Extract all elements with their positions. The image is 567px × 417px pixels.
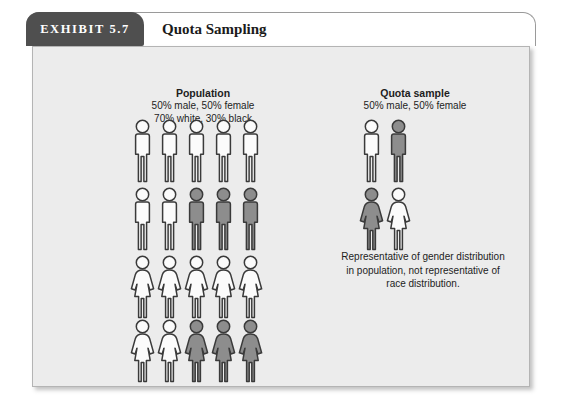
white-female-figure-icon — [385, 187, 412, 251]
white-male-figure-icon — [237, 119, 264, 183]
white-female-figure-icon — [210, 255, 237, 319]
white-female-figure-icon — [156, 319, 183, 383]
population-figure-row — [129, 319, 264, 383]
exhibit-body-panel: Population 50% male, 50% female 70% whit… — [32, 46, 530, 387]
white-female-figure-icon — [183, 255, 210, 319]
gray-male-figure-icon — [385, 119, 412, 183]
population-heading: Population — [93, 87, 313, 100]
white-female-figure-icon — [129, 255, 156, 319]
white-male-figure-icon — [156, 119, 183, 183]
gray-female-figure-icon — [358, 187, 385, 251]
gray-female-figure-icon — [210, 319, 237, 383]
population-figure-row — [129, 119, 264, 183]
population-figure-row — [129, 255, 264, 319]
gray-male-figure-icon — [210, 187, 237, 251]
white-male-figure-icon — [358, 119, 385, 183]
white-male-figure-icon — [129, 119, 156, 183]
quota-note: Representative of gender distribution in… — [313, 250, 533, 291]
gray-female-figure-icon — [237, 319, 264, 383]
population-figure-row — [129, 187, 264, 251]
quota-figure-row — [358, 119, 412, 183]
exhibit-card: EXHIBIT 5.7 Quota Sampling Population 50… — [26, 12, 536, 394]
quota-note-line-2: in population, not representative of — [313, 264, 533, 278]
exhibit-title: Quota Sampling — [162, 21, 267, 38]
population-subtext-gender: 50% male, 50% female — [93, 100, 313, 113]
quota-subtext-gender: 50% male, 50% female — [315, 100, 515, 113]
gray-female-figure-icon — [183, 319, 210, 383]
exhibit-number-tab: EXHIBIT 5.7 — [26, 12, 144, 46]
exhibit-number-label: EXHIBIT 5.7 — [40, 22, 130, 37]
quota-note-line-3: race distribution. — [313, 277, 533, 291]
white-male-figure-icon — [183, 119, 210, 183]
white-female-figure-icon — [129, 319, 156, 383]
white-male-figure-icon — [156, 187, 183, 251]
quota-figure-row — [358, 187, 412, 251]
gray-male-figure-icon — [183, 187, 210, 251]
white-male-figure-icon — [210, 119, 237, 183]
white-male-figure-icon — [129, 187, 156, 251]
white-female-figure-icon — [237, 255, 264, 319]
quota-heading: Quota sample — [315, 87, 515, 100]
quota-note-line-1: Representative of gender distribution — [313, 250, 533, 264]
white-female-figure-icon — [156, 255, 183, 319]
gray-male-figure-icon — [237, 187, 264, 251]
quota-heading-group: Quota sample 50% male, 50% female — [315, 87, 515, 113]
